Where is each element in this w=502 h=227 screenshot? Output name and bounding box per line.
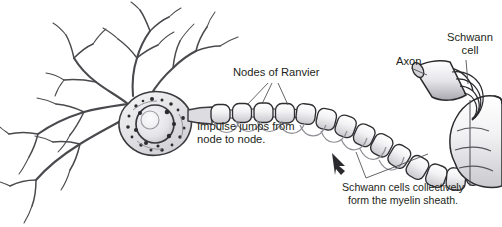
impulse-direction-arrow: [332, 153, 345, 175]
label-nodes-of-ranvier: Nodes of Ranvier: [233, 66, 319, 79]
cell-body: [119, 92, 192, 156]
label-schwann-line2: cell: [443, 44, 497, 57]
label-schwann-cell: Schwann cell: [443, 31, 497, 57]
label-impulse-jumps: Impulse jumps from node to node.: [197, 120, 295, 146]
label-sheath-line1: Schwann cells collectively: [320, 181, 486, 194]
label-myelin-sheath-caption: Schwann cells collectively form the myel…: [320, 181, 486, 206]
neuron-figure: Nodes of Ranvier Impulse jumps from node…: [0, 0, 502, 227]
label-impulse-line1: Impulse jumps from: [197, 120, 295, 133]
label-sheath-line2: form the myelin sheath.: [320, 194, 486, 207]
label-impulse-line2: node to node.: [197, 133, 295, 146]
label-axon: Axon: [396, 55, 422, 68]
myelin-sheath-segments: [211, 103, 487, 191]
label-schwann-line1: Schwann: [443, 31, 497, 44]
